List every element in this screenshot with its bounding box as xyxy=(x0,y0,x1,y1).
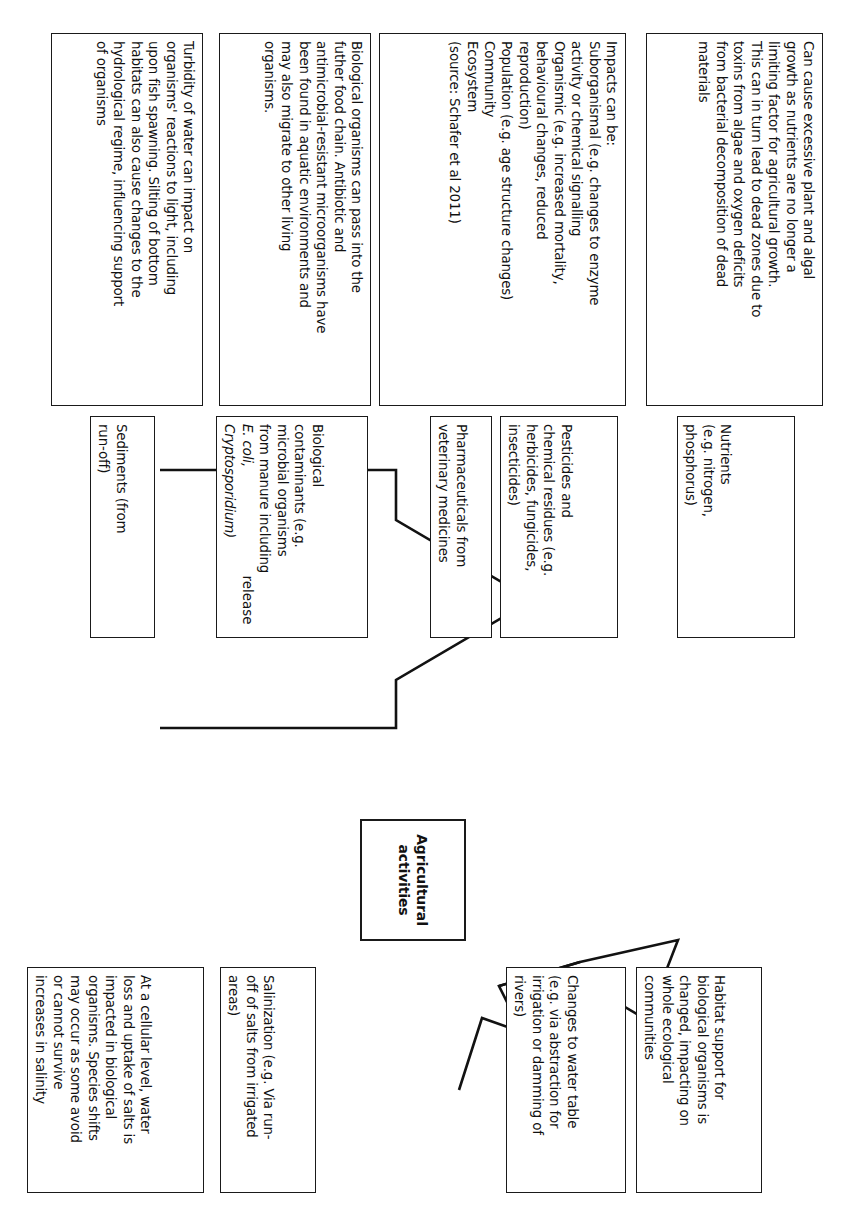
impact-box-biological-contaminants: Biological organisms can pass into the f… xyxy=(219,33,371,406)
impact-line: been found in aquatic environments and xyxy=(295,41,312,398)
leadto-box-water-table: Changes to water table (e.g. via abstrac… xyxy=(506,967,626,1193)
source-line: from manure including xyxy=(256,424,273,630)
leadto-line: areas) xyxy=(225,975,242,1185)
source-line-italic: Cryptosporidium) xyxy=(221,424,238,630)
leadto-line: loss and uptake of salts is xyxy=(119,975,136,1185)
impact-line: Suborganismal (e.g. changes to enzyme xyxy=(585,41,602,398)
leadto-box-salinization: Salinization (e.g. Via run- off of salts… xyxy=(220,967,316,1193)
diagram-canvas: Can cause excessive plant and algal grow… xyxy=(0,0,850,1228)
impact-line: limiting factor for agricultural growth. xyxy=(765,41,782,398)
source-line: herbicides, fungicides, xyxy=(522,424,539,630)
impact-line: (source: Schafer et al 2011) xyxy=(446,41,463,398)
leadto-line: Changes to water table xyxy=(563,975,580,1185)
source-line: (e.g. nitrogen, xyxy=(699,424,716,630)
impact-line: reproduction) xyxy=(515,41,532,398)
source-line: run-off) xyxy=(95,424,112,630)
center-node-agricultural-activities: Agricultural activities xyxy=(360,819,466,941)
impact-line: activity or chemical signalling xyxy=(568,41,585,398)
impact-line: Ecosystem xyxy=(463,41,480,398)
leadto-line: Salinization (e.g. Via run- xyxy=(260,975,277,1185)
source-line: Biological xyxy=(308,424,325,630)
rotated-diagram-wrapper: Can cause excessive plant and algal grow… xyxy=(0,0,850,1228)
center-node-label-line-2: activities xyxy=(395,845,412,916)
impact-line: Population (e.g. age structure changes) xyxy=(498,41,515,398)
impact-line: Organismic (e.g. increased mortality, xyxy=(550,41,567,398)
source-line: Pharmaceuticals from xyxy=(452,424,469,630)
source-box-sediments: Sediments (from run-off) xyxy=(90,416,155,638)
leadto-line: increases in salinity xyxy=(32,975,49,1185)
source-line: chemical residues (e.g. xyxy=(540,424,557,630)
impact-line: Turbidity of water can impact on xyxy=(180,41,197,398)
leadto-line: or cannot survive xyxy=(49,975,66,1185)
impact-line: may also migrate to other living xyxy=(278,41,295,398)
impact-line: Can cause excessive plant and algal xyxy=(800,41,817,398)
release-arrow-label: release xyxy=(239,540,256,660)
impact-line: futher food chain. Antibiotic and xyxy=(330,41,347,398)
leadto-line: impacted in biological xyxy=(102,975,119,1185)
source-line: Pesticides and xyxy=(557,424,574,630)
impact-line: organisms. xyxy=(260,41,277,398)
impact-line: behavioural changes, reduced xyxy=(533,41,550,398)
impact-line: organisms' reactions to light, including xyxy=(162,41,179,398)
leadto-line: At a cellular level, water xyxy=(137,975,154,1185)
center-node-label-line-1: Agricultural xyxy=(413,834,430,926)
leadto-box-habitat-support: Habitat support for biological organisms… xyxy=(636,967,762,1193)
impact-box-nutrients: Can cause excessive plant and algal grow… xyxy=(646,33,823,406)
leadto-box-salinity-impact: At a cellular level, water loss and upta… xyxy=(27,967,204,1193)
source-line: microbial organisms xyxy=(273,424,290,630)
leadto-line: (e.g. via abstraction for xyxy=(546,975,563,1185)
impact-box-sediments: Turbidity of water can impact on organis… xyxy=(51,33,203,406)
impact-line: Impacts can be: xyxy=(603,41,620,398)
impact-line: habitats can also cause changes to the xyxy=(127,41,144,398)
impact-line: hydrological regime, influencing support xyxy=(110,41,127,398)
source-box-pesticides: Pesticides and chemical residues (e.g. h… xyxy=(500,416,618,638)
leadto-line: communities xyxy=(641,975,658,1185)
impact-line: Community xyxy=(481,41,498,398)
leadto-line: biological organisms is xyxy=(693,975,710,1185)
source-box-pharmaceuticals: Pharmaceuticals from veterinary medicine… xyxy=(430,416,492,638)
impact-line: This can in turn lead to dead zones due … xyxy=(747,41,764,398)
source-line: veterinary medicines xyxy=(435,424,452,630)
source-box-nutrients: Nutrients (e.g. nitrogen, phosphorus) xyxy=(677,416,795,638)
source-line: Nutrients xyxy=(717,424,734,630)
leadto-line: Habitat support for xyxy=(711,975,728,1185)
impact-line: Biological organisms can pass into the xyxy=(348,41,365,398)
source-line: insecticides) xyxy=(505,424,522,630)
impact-line: materials xyxy=(695,41,712,398)
leadto-line: off of salts from irrigated xyxy=(242,975,259,1185)
impact-line: from bacterial decomposition of dead xyxy=(712,41,729,398)
source-line: phosphorus) xyxy=(682,424,699,630)
source-line: Sediments (from xyxy=(112,424,129,630)
source-line: contaminants (e.g. xyxy=(291,424,308,630)
leadto-line: whole ecological xyxy=(658,975,675,1185)
leadto-line: rivers) xyxy=(511,975,528,1185)
impact-line: antimicrobial-resistant microorganisms h… xyxy=(313,41,330,398)
impact-line: upon fish spawning. Silting of bottom xyxy=(145,41,162,398)
impact-box-pesticides: Impacts can be: Suborganismal (e.g. chan… xyxy=(379,33,626,406)
impact-line: growth as nutrients are no longer a xyxy=(782,41,799,398)
leadto-line: may occur as some avoid xyxy=(67,975,84,1185)
leadto-line: organisms. Species shifts xyxy=(84,975,101,1185)
impact-line: toxins from algae and oxygen deficits xyxy=(730,41,747,398)
impact-line: of organisms xyxy=(92,41,109,398)
leadto-line: changed, impacting on xyxy=(676,975,693,1185)
leadto-line: irrigation or damming of xyxy=(528,975,545,1185)
